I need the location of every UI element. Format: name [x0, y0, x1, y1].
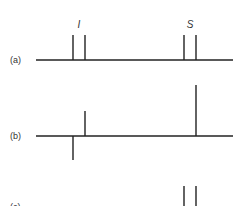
panel-a: (a)	[10, 35, 233, 65]
panel-label-b: (b)	[10, 131, 21, 141]
panel-label-c: (c)	[10, 202, 21, 206]
panel-label-a: (a)	[10, 55, 21, 65]
group-label-I: I	[78, 19, 81, 30]
panel-b: (b)	[10, 85, 233, 160]
panel-c: (c)	[10, 186, 233, 206]
stick-spectrum-figure: I S (a) (b) (c)	[0, 0, 241, 206]
group-label-S: S	[187, 19, 194, 30]
group-labels: I S	[78, 19, 194, 30]
